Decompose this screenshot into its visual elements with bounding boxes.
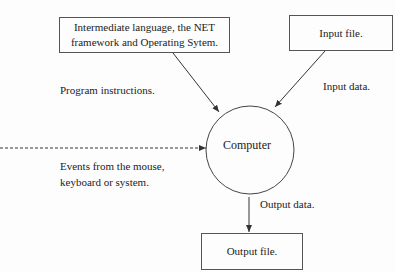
system-node-label-line2: framework and Operating Sytem. bbox=[71, 35, 218, 50]
output-file-label: Output file. bbox=[227, 244, 278, 259]
program-instructions-label: Program instructions. bbox=[60, 82, 155, 98]
computer-label: Computer bbox=[223, 137, 271, 153]
output-data-label: Output data. bbox=[260, 196, 314, 212]
arrow-program-instructions bbox=[173, 53, 219, 112]
events-label-line2: keyboard or system. bbox=[60, 174, 149, 190]
system-node: Intermediate language, the NET framework… bbox=[59, 17, 230, 53]
input-data-label: Input data. bbox=[323, 78, 370, 94]
input-file-label: Input file. bbox=[319, 26, 362, 41]
system-node-label-line1: Intermediate language, the NET bbox=[71, 20, 218, 35]
output-file-node: Output file. bbox=[201, 233, 303, 270]
arrow-input-data bbox=[275, 51, 325, 107]
input-file-node: Input file. bbox=[289, 15, 393, 51]
events-label-line1: Events from the mouse, bbox=[60, 158, 164, 174]
